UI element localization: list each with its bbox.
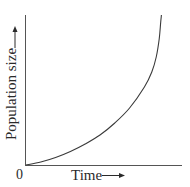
chart-canvas bbox=[0, 0, 190, 187]
y-axis-label-container: Population size bbox=[4, 20, 24, 140]
x-axis-label: Time bbox=[71, 168, 102, 183]
y-axis-label: Population size bbox=[4, 20, 19, 140]
population-growth-curve bbox=[26, 15, 161, 165]
origin-label: 0 bbox=[16, 168, 23, 182]
x-axis-arrow-icon bbox=[102, 173, 125, 178]
